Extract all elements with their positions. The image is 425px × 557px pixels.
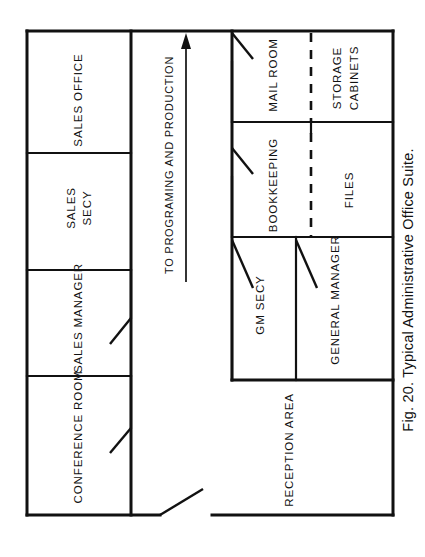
room-label-conference-room: CONFERENCE ROOM <box>72 371 84 504</box>
corridor-flow-label: TO PROGRAMING AND PRODUCTION <box>163 56 175 274</box>
corridor-flow-arrow <box>181 33 191 282</box>
door-mail-room-leaf <box>232 33 253 59</box>
room-label-bookkeeping: BOOKKEEPING <box>267 138 279 232</box>
door-gm-secy-leaf <box>232 240 253 288</box>
door-suite-entrance <box>160 489 203 515</box>
room-label-sales-office: SALES OFFICE <box>72 53 84 146</box>
room-label-storage-cabinets: STORAGE CABINETS <box>331 46 360 111</box>
room-label-storage-cabinets-line1: STORAGE <box>331 47 343 109</box>
room-label-mail-room: MAIL ROOM <box>267 38 279 111</box>
room-label-sales-manager: SALES MANAGER <box>72 263 84 373</box>
figure-caption: Fig. 20. Typical Administrative Office S… <box>400 148 416 431</box>
flow-arrow-head <box>181 33 191 49</box>
room-label-sales-secy-line1: SALES <box>65 187 77 229</box>
door-conference-room-leaf <box>110 428 131 453</box>
door-bookkeeping-leaf <box>232 148 253 174</box>
room-label-gm-secy: GM SECY <box>254 275 266 334</box>
left-wing-doors <box>110 270 131 453</box>
floor-plan-drawing: TO PROGRAMING AND PRODUCTION SALES OFFIC… <box>0 0 425 557</box>
room-label-general-manager: GENERAL MANAGER <box>329 235 341 364</box>
room-label-sales-secy: SALES SECY <box>65 187 93 229</box>
door-sales-manager-leaf <box>110 318 131 344</box>
figure-container: TO PROGRAMING AND PRODUCTION SALES OFFIC… <box>0 0 425 557</box>
door-suite-entrance-leaf <box>160 489 203 515</box>
room-label-files: FILES <box>343 172 355 208</box>
door-general-manager-leaf <box>296 240 317 288</box>
right-wing-partitions <box>232 122 393 380</box>
room-label-reception-area: RECEPTION AREA <box>283 393 295 507</box>
room-label-storage-cabinets-line2: CABINETS <box>348 46 360 111</box>
room-label-sales-secy-line2: SECY <box>81 191 93 226</box>
